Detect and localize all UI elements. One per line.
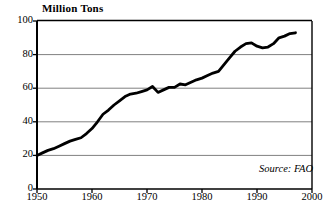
gridlines-group <box>37 55 312 156</box>
chart-plot-svg <box>0 0 330 217</box>
data-series-line <box>37 33 296 156</box>
chart-container: Million Tons 100 80 60 40 20 0 1950 1960… <box>0 0 330 217</box>
